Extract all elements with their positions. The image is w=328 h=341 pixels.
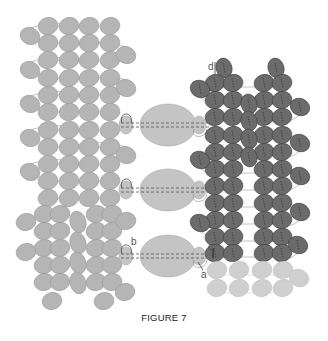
large-center-bead (140, 169, 196, 211)
light-bead (57, 136, 81, 158)
vertical-bead (67, 209, 88, 234)
beadwork-diagram: dbca (0, 0, 328, 341)
light-bead (77, 49, 101, 71)
dark-bead (221, 192, 245, 214)
light-bead (40, 290, 64, 312)
light-bead (57, 153, 81, 175)
light-bead (48, 271, 72, 293)
figure-caption: FIGURE 7 (0, 312, 328, 323)
vertical-bead (67, 250, 88, 275)
light-bead (98, 101, 122, 123)
dark-bead (221, 209, 245, 231)
light-bead (98, 170, 122, 192)
light-bead (57, 15, 81, 37)
light-bead (57, 84, 81, 106)
faded-bead (227, 277, 251, 299)
faded-bead (227, 259, 251, 281)
light-bead (77, 136, 101, 158)
dark-bead (270, 106, 294, 128)
faded-bead (250, 259, 274, 281)
light-bead (57, 32, 81, 54)
light-bead (36, 15, 60, 37)
light-bead (48, 220, 72, 242)
faded-bead (250, 277, 274, 299)
light-bead (36, 49, 60, 71)
light-bead (48, 254, 72, 276)
light-bead (48, 237, 72, 259)
light-bead (57, 67, 81, 89)
light-bead (57, 49, 81, 71)
dark-bead (221, 158, 245, 180)
large-center-bead (140, 235, 196, 277)
light-bead (77, 119, 101, 141)
vertical-bead (67, 270, 88, 295)
light-bead (77, 32, 101, 54)
light-bead (77, 170, 101, 192)
vertical-bead (67, 230, 88, 255)
step-label-d: d (208, 61, 214, 72)
light-bead (14, 241, 38, 263)
light-bead (77, 153, 101, 175)
large-center-bead (140, 104, 196, 146)
light-bead (57, 101, 81, 123)
light-bead (98, 15, 122, 37)
light-bead (77, 15, 101, 37)
light-bead (92, 290, 116, 312)
light-bead (98, 119, 122, 141)
light-bead (57, 170, 81, 192)
faded-bead (205, 277, 229, 299)
faded-bead (205, 259, 229, 281)
light-bead (77, 67, 101, 89)
step-label-b: b (131, 236, 137, 247)
light-bead (77, 84, 101, 106)
light-bead (57, 119, 81, 141)
left-bead-panel (14, 15, 138, 312)
dark-bead (270, 141, 294, 163)
dark-bead (270, 175, 294, 197)
connector-bead (192, 116, 206, 134)
step-label-a: a (201, 269, 207, 280)
dark-bead (221, 242, 245, 264)
light-bead (77, 101, 101, 123)
center-large-beads (119, 104, 210, 277)
dark-bead (221, 175, 245, 197)
step-label-c: c (208, 241, 213, 252)
connector-bead (192, 247, 206, 265)
connector-bead (192, 181, 206, 199)
